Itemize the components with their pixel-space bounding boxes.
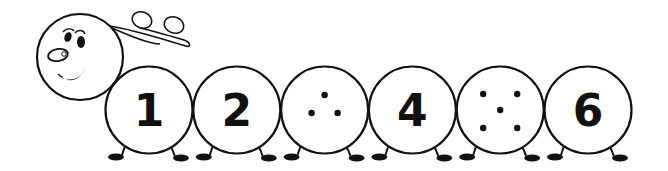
body-segment-3 bbox=[281, 67, 368, 154]
segment-number: 6 bbox=[573, 85, 604, 136]
foot-icon bbox=[173, 155, 189, 162]
body-segment-1: 1 bbox=[106, 67, 193, 154]
foot-icon bbox=[459, 154, 475, 161]
right-eye-icon bbox=[77, 36, 85, 48]
body-segment-6: 6 bbox=[545, 67, 632, 154]
foot-icon bbox=[436, 155, 452, 162]
body-segment-5 bbox=[457, 67, 544, 154]
caterpillar-head bbox=[37, 14, 123, 100]
body-segments: 1246 bbox=[106, 67, 632, 154]
dot-icon bbox=[321, 92, 327, 98]
dot-icon bbox=[480, 91, 486, 97]
foot-icon bbox=[371, 154, 387, 161]
dot-icon bbox=[497, 107, 503, 113]
foot-icon bbox=[524, 155, 540, 162]
foot-icon bbox=[261, 155, 277, 162]
segment-number: 2 bbox=[221, 85, 252, 136]
dot-icon bbox=[334, 110, 340, 116]
body-segment-2: 2 bbox=[193, 67, 280, 154]
foot-icon bbox=[284, 154, 300, 161]
body-segment-4: 4 bbox=[369, 67, 456, 154]
legs bbox=[108, 146, 628, 162]
foot-icon bbox=[547, 154, 563, 161]
foot-icon bbox=[196, 154, 212, 161]
foot-icon bbox=[349, 155, 365, 162]
segment-number: 4 bbox=[397, 85, 428, 136]
dot-icon bbox=[480, 125, 486, 131]
foot-icon bbox=[108, 154, 124, 161]
caterpillar-illustration: 1246 bbox=[0, 0, 668, 171]
dot-icon bbox=[308, 110, 314, 116]
antennae-icon bbox=[110, 9, 190, 46]
dot-icon bbox=[514, 91, 520, 97]
foot-icon bbox=[612, 155, 628, 162]
segment-number: 1 bbox=[134, 85, 165, 136]
dot-icon bbox=[514, 125, 520, 131]
